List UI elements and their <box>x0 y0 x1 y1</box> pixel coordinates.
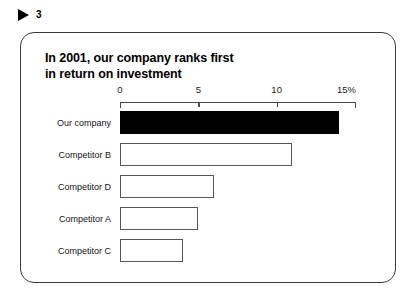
x-axis-tick <box>198 102 199 107</box>
bar-category-label: Competitor C <box>21 245 111 256</box>
x-axis-line <box>120 102 355 103</box>
bar <box>120 207 198 230</box>
x-tick-label: 5 <box>196 84 201 96</box>
bar <box>120 175 214 198</box>
bar-category-label: Competitor A <box>21 213 111 224</box>
x-axis-tick <box>120 102 121 108</box>
slide-marker: 3 <box>18 9 42 21</box>
x-tick-label: 10 <box>271 84 282 96</box>
bar-category-label: Competitor D <box>21 181 111 192</box>
bar <box>120 239 183 262</box>
x-axis-tick <box>277 102 278 107</box>
bar-row: Competitor D <box>21 175 397 198</box>
chart-plot-area: 051015% Our companyCompetitor BCompetito… <box>21 33 397 284</box>
x-axis-tick <box>355 102 356 108</box>
bar-row: Our company <box>21 111 397 134</box>
bar-row: Competitor C <box>21 239 397 262</box>
x-tick-label: 15% <box>337 84 356 96</box>
x-tick-label: 0 <box>117 84 122 96</box>
bar-category-label: Competitor B <box>21 149 111 160</box>
bar <box>120 143 292 166</box>
bar-row: Competitor A <box>21 207 397 230</box>
x-axis-tick-labels: 051015% <box>120 84 355 98</box>
bar <box>120 111 339 134</box>
triangle-right-icon <box>18 9 29 21</box>
bar-category-label: Our company <box>21 117 111 128</box>
chart-card: In 2001, our company ranks first in retu… <box>20 32 396 283</box>
bar-row: Competitor B <box>21 143 397 166</box>
slide-number: 3 <box>36 10 42 20</box>
